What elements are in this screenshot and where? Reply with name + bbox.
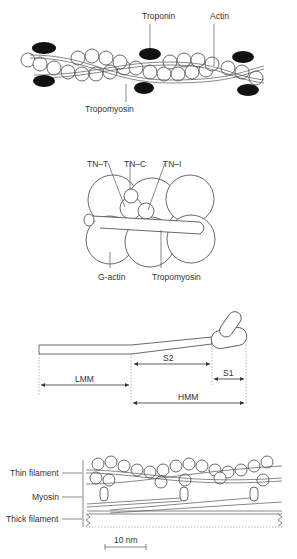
- label-s2: S2: [163, 353, 174, 363]
- scale-bar-label: 10 nm: [114, 535, 138, 545]
- label-tn-i: TN–I: [163, 159, 181, 169]
- thin-filament-beads: [90, 456, 273, 488]
- panel-myosin-molecule: S2 S1 LMM HMM: [39, 309, 248, 405]
- label-tn-t: TN–T: [87, 159, 108, 169]
- scale-bar: 10 nm: [105, 535, 146, 550]
- label-tropomyosin-b: Tropomyosin: [152, 272, 201, 282]
- label-tn-c: TN–C: [124, 159, 146, 169]
- panel-thin-filament: Troponin Actin Tropomyosin: [21, 11, 264, 114]
- panel-filament-interaction: Thin filament Myosin Thick filament 10 n…: [6, 456, 282, 550]
- label-troponin: Troponin: [142, 11, 176, 21]
- label-thin-filament: Thin filament: [10, 468, 59, 478]
- label-hmm: HMM: [178, 392, 198, 402]
- label-thick-filament: Thick filament: [6, 514, 59, 524]
- myosin-heads: [100, 487, 258, 501]
- label-g-actin: G-actin: [98, 272, 126, 282]
- label-actin: Actin: [210, 11, 229, 21]
- panel-troponin-complex: TN–T TN–C TN–I G-actin Tropomyosin: [84, 159, 215, 282]
- label-tropomyosin: Tropomyosin: [85, 104, 134, 114]
- label-lmm: LMM: [75, 374, 94, 384]
- label-s1: S1: [223, 368, 234, 378]
- label-myosin: Myosin: [32, 492, 59, 502]
